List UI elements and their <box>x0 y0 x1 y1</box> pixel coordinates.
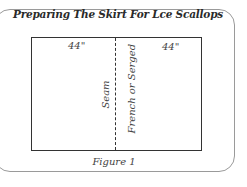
seam-type-label: French or Serged <box>126 52 137 134</box>
seam-dashed-line <box>115 38 116 150</box>
seam-label: Seam <box>100 78 111 112</box>
figure-title: Preparing The Skirt For Lce Scallops <box>0 8 236 20</box>
left-width-measurement: 44" <box>68 40 85 51</box>
right-width-measurement: 44" <box>162 41 179 52</box>
figure-caption: Figure 1 <box>0 156 228 167</box>
skirt-panel-rectangle <box>31 37 202 151</box>
